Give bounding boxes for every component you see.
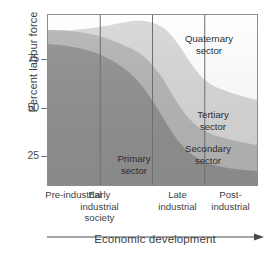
x-axis-category-labels: Pre-industrial Early industrial society … xyxy=(47,189,258,229)
y-tick-50-label: 50 xyxy=(27,101,39,113)
y-tick-75-label: 75 xyxy=(27,52,39,64)
x-category-late-industrial: Late industrial xyxy=(151,189,204,212)
x-category-post-line1: Post- xyxy=(219,189,241,200)
x-category-late-line1: Late xyxy=(168,189,187,200)
y-tick-50: 50– xyxy=(3,101,47,113)
x-category-post-industrial: Post- industrial xyxy=(203,189,258,212)
y-tick-25-label: 25 xyxy=(27,149,39,161)
x-category-early-line1: Early xyxy=(89,189,111,200)
x-category-post-line2: industrial xyxy=(211,201,249,212)
x-category-early-industrial-society: Early industrial society xyxy=(73,189,126,224)
x-category-late-line2: industrial xyxy=(158,201,196,212)
labour-force-sector-chart: Percent labour force 75– 50– 25– xyxy=(0,0,277,254)
plot-area: Quaternary sector Tertiary sector Second… xyxy=(47,14,258,186)
x-axis-title: Economic development xyxy=(40,233,270,245)
stacked-area-svg xyxy=(48,15,257,185)
x-category-early-line2: industrial xyxy=(80,201,118,212)
y-axis-ticks: 75– 50– 25– xyxy=(0,0,47,254)
y-tick-75: 75– xyxy=(3,52,47,64)
y-tick-25: 25– xyxy=(3,149,47,161)
x-category-early-line3: society xyxy=(85,212,115,223)
